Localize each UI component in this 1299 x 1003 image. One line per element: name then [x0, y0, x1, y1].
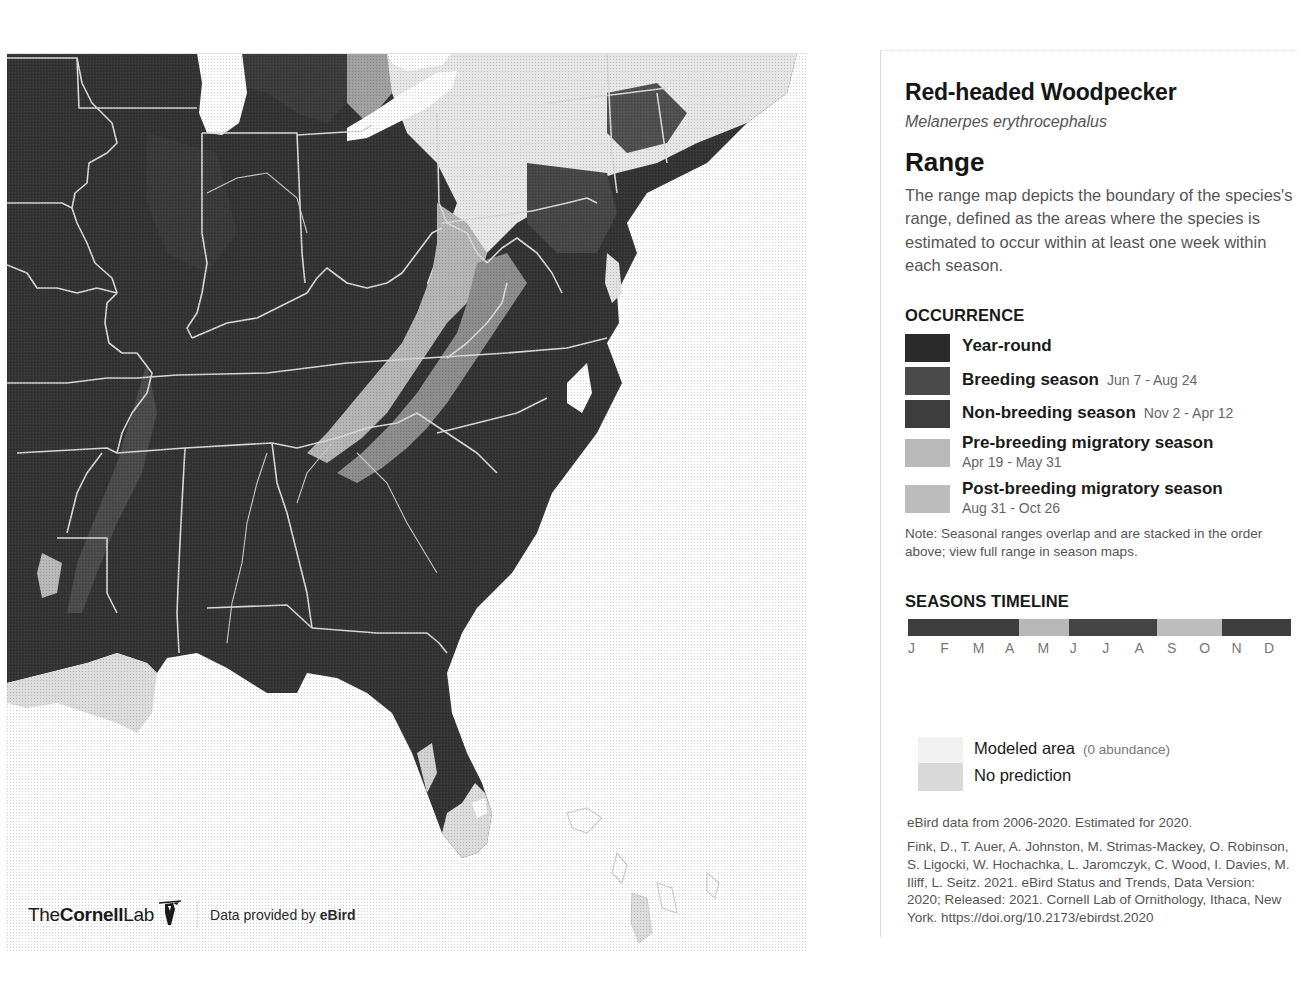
year-round-swatch — [905, 334, 950, 362]
legend-panel: Red-headed Woodpecker Melanerpes erythro… — [880, 50, 1299, 937]
post-breeding-swatch — [905, 485, 950, 513]
modeled-area-label: Modeled area — [974, 739, 1075, 757]
timeline-segment-post-breeding — [1157, 619, 1222, 636]
legend-label: Pre-breeding migratory season — [962, 433, 1213, 453]
ebird-brand-link[interactable]: eBird — [320, 907, 356, 923]
month-label: D — [1264, 640, 1291, 656]
month-label: M — [973, 640, 1000, 656]
ebird-data-range: eBird data from 2006-2020. Estimated for… — [907, 815, 1192, 830]
legend-label: Post-breeding migratory season — [962, 479, 1223, 499]
cornell-lab-logo[interactable]: The Cornell Lab — [28, 899, 183, 932]
non-breeding-swatch — [905, 400, 950, 428]
legend-dates: Nov 2 - Apr 12 — [1144, 405, 1234, 421]
no-prediction-swatch — [918, 763, 963, 791]
timeline-segment-breeding — [1069, 619, 1157, 636]
legend-item-breeding: Breeding seasonJun 7 - Aug 24 — [905, 367, 1197, 395]
timeline-segment-pre-breeding — [1019, 619, 1069, 636]
legend-item-pre-breeding: Pre-breeding migratory season Apr 19 - M… — [905, 439, 1213, 470]
timeline-segment-non-breeding — [908, 619, 1019, 636]
map-texture — [7, 53, 807, 953]
range-description: The range map depicts the boundary of th… — [905, 184, 1299, 277]
legend-label: Non-breeding season — [962, 403, 1136, 422]
legend-label: Year-round — [962, 336, 1052, 355]
month-label: M — [1037, 640, 1064, 656]
species-common-name: Red-headed Woodpecker — [905, 79, 1176, 106]
modeled-area-swatch — [918, 737, 963, 763]
breeding-swatch — [905, 367, 950, 395]
citation-text: Fink, D., T. Auer, A. Johnston, M. Strim… — [907, 838, 1292, 927]
footer-divider — [197, 902, 198, 928]
occurrence-heading: OCCURRENCE — [905, 306, 1024, 325]
month-label: A — [1135, 640, 1162, 656]
legend-item-post-breeding: Post-breeding migratory season Aug 31 - … — [905, 485, 1223, 516]
modeled-area-swatches — [918, 737, 963, 791]
modeled-area-note: (0 abundance) — [1083, 742, 1170, 757]
legend-label: Breeding season — [962, 370, 1099, 389]
legend-item-year-round: Year-round — [905, 334, 1052, 362]
logo-cornell-text: Cornell — [60, 904, 123, 926]
month-label: J — [908, 640, 935, 656]
map-footer: The Cornell Lab Data provided by eBird — [28, 898, 356, 932]
month-label: F — [940, 640, 967, 656]
timeline-month-labels: J F M A M J J A S O N D — [908, 640, 1291, 656]
data-provided-by: Data provided by eBird — [210, 907, 356, 923]
month-label: J — [1070, 640, 1097, 656]
range-map[interactable] — [7, 53, 807, 953]
month-label: O — [1199, 640, 1226, 656]
legend-dates: Apr 19 - May 31 — [962, 454, 1213, 470]
month-label: N — [1232, 640, 1259, 656]
seasons-timeline-bar — [908, 619, 1291, 636]
data-provided-prefix: Data provided by — [210, 907, 320, 923]
legend-item-non-breeding: Non-breeding seasonNov 2 - Apr 12 — [905, 400, 1233, 428]
logo-lab-text: Lab — [123, 904, 154, 926]
month-label: A — [1005, 640, 1032, 656]
seasons-timeline-heading: SEASONS TIMELINE — [905, 592, 1069, 611]
woodpecker-logo-icon — [157, 899, 183, 932]
no-prediction-label: No prediction — [974, 766, 1071, 785]
range-title: Range — [905, 147, 984, 178]
month-label: S — [1167, 640, 1194, 656]
legend-dates: Jun 7 - Aug 24 — [1107, 372, 1197, 388]
range-map-canvas[interactable] — [7, 53, 807, 953]
occurrence-note: Note: Seasonal ranges overlap and are st… — [905, 525, 1295, 560]
modeled-area-legend: Modeled area(0 abundance) — [974, 739, 1170, 758]
legend-dates: Aug 31 - Oct 26 — [962, 500, 1223, 516]
logo-the-text: The — [28, 904, 60, 926]
timeline-segment-non-breeding-end — [1222, 619, 1291, 636]
month-label: J — [1102, 640, 1129, 656]
species-scientific-name: Melanerpes erythrocephalus — [905, 113, 1107, 131]
pre-breeding-swatch — [905, 439, 950, 467]
